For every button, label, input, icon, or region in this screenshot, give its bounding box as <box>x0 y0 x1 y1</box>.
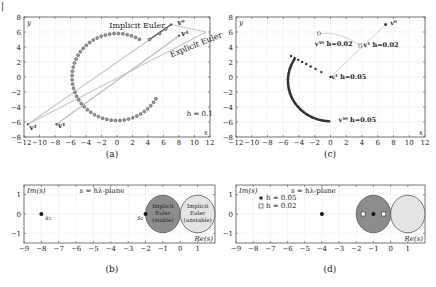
implicit-euler-point <box>83 105 86 108</box>
x-tick-label: −2 <box>310 139 320 147</box>
x-tick-label: 4 <box>360 139 365 147</box>
implicit-euler-point <box>110 119 113 122</box>
implicit-euler-point <box>93 113 96 116</box>
legend-marker <box>259 196 263 200</box>
x-tick-label: 0 <box>178 245 182 253</box>
x-axis-label: x <box>419 129 423 137</box>
implicit-euler-point <box>71 74 74 77</box>
implicit-euler-point <box>100 35 103 38</box>
caption-a: (a) <box>106 149 118 159</box>
caption-c: (c) <box>324 149 336 159</box>
y-tick-label: 4 <box>17 44 22 52</box>
y-tick-label: 0 <box>17 74 21 82</box>
implicit-euler-point <box>139 112 142 115</box>
implicit-euler-point <box>88 41 91 44</box>
implicit-euler-point <box>117 32 120 35</box>
x-tick-label: −6 <box>65 139 76 147</box>
implicit-euler-point <box>143 110 146 113</box>
y-tick-label: −1 <box>223 230 233 238</box>
annotation: v¹ <box>57 121 65 130</box>
y-tick-label: 2 <box>17 59 21 67</box>
eigenvalue-point <box>144 212 148 216</box>
implicit-euler-point <box>73 62 76 65</box>
y-axis-label: Im(s) <box>26 187 46 195</box>
implicit-euler-point <box>118 119 121 122</box>
x-tick-label: −8 <box>248 245 258 253</box>
x-tick-label: −5 <box>88 245 98 253</box>
h005-point <box>305 63 307 65</box>
h002-point <box>317 32 320 35</box>
start-point <box>384 23 387 26</box>
plane-title: s = hλ-plane <box>80 187 125 195</box>
y-tick-label: −4 <box>11 104 22 112</box>
x-tick-label: −6 <box>282 245 293 253</box>
y-tick-label: 2 <box>229 59 233 67</box>
x-axis-label: Re(s) <box>404 235 424 243</box>
implicit-euler-point <box>71 70 74 73</box>
implicit-euler-point <box>127 118 130 121</box>
implicit-euler-point <box>82 47 85 50</box>
implicit-euler-point <box>154 97 157 100</box>
annotation: v⁵⁰ h=0.05 <box>337 116 376 124</box>
x-tick-label: −8 <box>36 245 46 253</box>
y-tick-label: 8 <box>17 14 21 22</box>
implicit-euler-point <box>85 44 88 47</box>
x-tick-label: −8 <box>50 139 60 147</box>
x-tick-label: −3 <box>123 245 133 253</box>
x-tick-label: −10 <box>32 139 47 147</box>
x-tick-label: −9 <box>19 245 29 253</box>
y-tick-label: 6 <box>17 29 22 37</box>
y-tick-label: 1 <box>229 191 233 199</box>
x-tick-label: −8 <box>262 139 272 147</box>
x-axis-label: x <box>204 129 208 137</box>
h005-point <box>297 59 299 61</box>
x-tick-label: −1 <box>368 245 378 253</box>
x-tick-label: −7 <box>265 245 275 253</box>
implicit-euler-point <box>75 95 78 98</box>
plane-title: s = hλ-plane <box>291 187 336 195</box>
corner-mark: | <box>1 1 4 12</box>
implicit-euler-point <box>77 98 80 101</box>
x-tick-label: 0 <box>388 245 392 253</box>
implicit-euler-point <box>131 116 134 119</box>
annotation: v³ <box>28 123 36 132</box>
implicit-euler-point <box>96 36 99 39</box>
y-axis-label: Im(s) <box>238 187 258 195</box>
x-tick-label: −4 <box>106 245 117 253</box>
implicit-euler-point <box>130 34 133 37</box>
x-tick-label: −10 <box>244 139 259 147</box>
implicit-euler-point <box>79 50 82 53</box>
implicit-euler-point <box>72 87 75 90</box>
caption-b: (b) <box>106 264 119 274</box>
legend-label: h = 0.05 <box>266 194 296 202</box>
y-axis-label: y <box>26 19 32 27</box>
region-label: Implicit <box>152 203 174 210</box>
implicit-euler-point <box>114 119 117 122</box>
implicit-euler-point <box>86 108 89 111</box>
x-tick-label: −2 <box>140 245 150 253</box>
y-tick-label: 8 <box>229 14 233 22</box>
h002-point <box>359 44 362 47</box>
x-tick-label: 1 <box>406 245 410 253</box>
x-tick-label: −4 <box>317 245 328 253</box>
stability-region <box>391 195 425 233</box>
implicit-euler-point <box>158 32 161 35</box>
eigenvalue-point <box>371 212 375 216</box>
y-tick-label: 6 <box>229 29 234 37</box>
h002-trajectory <box>331 25 386 78</box>
h005-point <box>314 68 316 70</box>
implicit-euler-point <box>71 83 74 86</box>
implicit-euler-point <box>89 111 92 114</box>
implicit-euler-point <box>138 38 141 41</box>
annotation: Explicit Euler <box>169 30 224 59</box>
y-tick-label: 4 <box>229 44 234 52</box>
y-tick-label: −6 <box>11 119 22 127</box>
x-tick-label: 0 <box>328 139 332 147</box>
x-tick-label: 2 <box>344 139 348 147</box>
y-tick-label: 0 <box>17 211 21 219</box>
x-tick-label: 8 <box>177 139 181 147</box>
x-tick-label: −6 <box>278 139 289 147</box>
region-label: (unstable) <box>184 217 212 223</box>
implicit-euler-point <box>105 118 108 121</box>
x-tick-label: 4 <box>146 139 151 147</box>
